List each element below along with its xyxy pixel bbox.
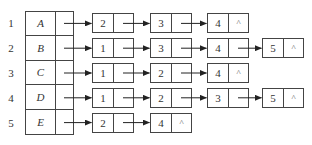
list-node: 2 bbox=[92, 113, 134, 133]
node-pointer bbox=[114, 114, 133, 132]
node-pointer: ^ bbox=[284, 39, 303, 57]
vertex-name: B bbox=[26, 36, 56, 60]
list-node: 2 bbox=[150, 63, 192, 83]
list-node: 4^ bbox=[207, 13, 249, 33]
node-value: 2 bbox=[93, 114, 114, 132]
node-pointer: ^ bbox=[229, 64, 248, 82]
vertex-head-cell: A bbox=[25, 11, 74, 36]
list-node: 1 bbox=[92, 38, 134, 58]
row-index: 2 bbox=[6, 42, 16, 54]
node-value: 3 bbox=[151, 39, 172, 57]
node-pointer: ^ bbox=[284, 89, 303, 107]
list-node: 4 bbox=[207, 38, 249, 58]
vertex-name: A bbox=[26, 12, 56, 35]
list-node: 2 bbox=[92, 13, 134, 33]
node-value: 2 bbox=[93, 14, 114, 32]
node-pointer bbox=[114, 89, 133, 107]
list-node: 5^ bbox=[262, 38, 304, 58]
node-pointer: ^ bbox=[172, 114, 191, 132]
row-index: 1 bbox=[6, 17, 16, 29]
list-node: 3 bbox=[207, 88, 249, 108]
node-value: 2 bbox=[151, 89, 172, 107]
node-value: 2 bbox=[151, 64, 172, 82]
node-pointer bbox=[229, 89, 248, 107]
vertex-name: D bbox=[26, 85, 56, 109]
node-pointer bbox=[172, 14, 191, 32]
list-node: 1 bbox=[92, 63, 134, 83]
vertex-head-cell: E bbox=[25, 110, 74, 135]
node-value: 3 bbox=[208, 89, 229, 107]
node-value: 4 bbox=[208, 64, 229, 82]
node-value: 5 bbox=[263, 89, 284, 107]
node-pointer bbox=[114, 64, 133, 82]
row-index: 5 bbox=[6, 117, 16, 129]
vertex-name: C bbox=[26, 61, 56, 85]
node-pointer bbox=[114, 39, 133, 57]
node-pointer bbox=[229, 39, 248, 57]
list-node: 1 bbox=[92, 88, 134, 108]
list-node: 2 bbox=[150, 88, 192, 108]
list-node: 4^ bbox=[207, 63, 249, 83]
vertex-head-cell: D bbox=[25, 85, 74, 110]
node-pointer bbox=[172, 64, 191, 82]
node-value: 1 bbox=[93, 64, 114, 82]
list-node: 3 bbox=[150, 13, 192, 33]
list-node: 3 bbox=[150, 38, 192, 58]
vertex-head-cell: B bbox=[25, 36, 74, 61]
node-value: 1 bbox=[93, 39, 114, 57]
list-node: 5^ bbox=[262, 88, 304, 108]
node-value: 3 bbox=[151, 14, 172, 32]
node-pointer bbox=[114, 14, 133, 32]
node-value: 1 bbox=[93, 89, 114, 107]
node-pointer: ^ bbox=[229, 14, 248, 32]
row-index: 4 bbox=[6, 92, 16, 104]
node-pointer bbox=[172, 39, 191, 57]
list-node: 4^ bbox=[150, 113, 192, 133]
node-value: 4 bbox=[151, 114, 172, 132]
node-pointer bbox=[172, 89, 191, 107]
vertex-name: E bbox=[26, 110, 56, 134]
row-index: 3 bbox=[6, 67, 16, 79]
node-value: 4 bbox=[208, 14, 229, 32]
vertex-head-cell: C bbox=[25, 61, 74, 86]
node-value: 5 bbox=[263, 39, 284, 57]
node-value: 4 bbox=[208, 39, 229, 57]
